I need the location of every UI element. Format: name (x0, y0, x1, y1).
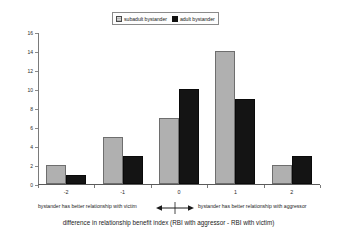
x-tick-mark (320, 185, 321, 188)
bar-subadult-bystander-2 (272, 165, 292, 184)
x-tick-mark (207, 185, 208, 188)
bar-adult-bystander-0 (179, 89, 199, 184)
y-tick-mark (35, 52, 38, 53)
y-tick-mark (35, 33, 38, 34)
y-tick-label: 12 (27, 69, 33, 74)
y-tick-label: 6 (30, 126, 33, 131)
legend-swatch-black-icon (172, 16, 178, 22)
x-tick-mark (264, 185, 265, 188)
legend-item-adult-bystander: adult bystander (172, 16, 215, 22)
bar-adult-bystander--2 (66, 175, 86, 185)
x-tick-label--1: -1 (120, 189, 125, 195)
y-tick-mark (35, 147, 38, 148)
bar-subadult-bystander-1 (215, 51, 235, 184)
bar-subadult-bystander-0 (159, 118, 179, 185)
bar-subadult-bystander--2 (46, 165, 66, 184)
plot-area: 1614121086420 -2-1012 (38, 33, 320, 185)
y-tick-mark (35, 166, 38, 167)
x-tick-mark (38, 185, 39, 188)
x-tick-mark (151, 185, 152, 188)
y-tick-label: 16 (27, 31, 33, 36)
y-tick-label: 14 (27, 50, 33, 55)
legend-label-adult-bystander: adult bystander (180, 16, 215, 22)
y-axis-line (38, 33, 39, 185)
y-tick-label: 8 (30, 107, 33, 112)
x-tick-label--2: -2 (64, 189, 69, 195)
annotation-left-victim: bystander has better relationship with v… (38, 203, 137, 210)
x-tick-label-1: 1 (234, 189, 237, 195)
x-tick-mark (94, 185, 95, 188)
legend-item-subadult-bystander: subadult bystander (116, 16, 167, 22)
annotation-right-aggressor: bystander has better relationship with a… (198, 203, 306, 210)
y-tick-label: 10 (27, 88, 33, 93)
bar-subadult-bystander--1 (103, 137, 123, 185)
bar-adult-bystander--1 (123, 156, 143, 185)
y-tick-label: 2 (30, 164, 33, 169)
bar-adult-bystander-2 (292, 156, 312, 185)
x-tick-label-0: 0 (178, 189, 181, 195)
double-headed-arrow-icon (155, 200, 195, 212)
x-tick-label-2: 2 (290, 189, 293, 195)
y-tick-mark (35, 71, 38, 72)
y-axis-title: # of post-conflict affiliations (0, 0, 1, 36)
bar-adult-bystander-1 (235, 99, 255, 185)
x-axis-title: difference in relationship benefit index… (0, 219, 337, 227)
y-tick-mark (35, 109, 38, 110)
legend-swatch-gray-icon (116, 16, 122, 22)
y-tick-label: 0 (30, 183, 33, 188)
y-tick-label: 4 (30, 145, 33, 150)
chart-legend: subadult bystander adult bystander (112, 12, 219, 25)
y-tick-mark (35, 128, 38, 129)
legend-label-subadult-bystander: subadult bystander (124, 16, 167, 22)
y-tick-mark (35, 90, 38, 91)
x-axis-line (38, 184, 320, 185)
